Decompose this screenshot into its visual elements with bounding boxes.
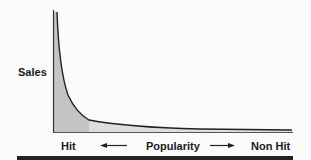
arrow-left-icon xyxy=(100,143,127,148)
head-region xyxy=(54,12,89,132)
demand-curve xyxy=(57,12,292,130)
x-axis-popularity-label: Popularity xyxy=(146,141,200,152)
arrow-right-icon xyxy=(210,143,235,148)
y-axis-label: Sales xyxy=(18,67,47,78)
x-axis-nonhit-label: Non Hit xyxy=(251,141,290,152)
bottom-rule xyxy=(17,156,293,160)
x-axis-hit-label: Hit xyxy=(61,141,76,152)
long-tail-figure: Sales Hit Popularity Non Hit xyxy=(0,0,311,160)
long-tail-chart xyxy=(0,0,311,160)
